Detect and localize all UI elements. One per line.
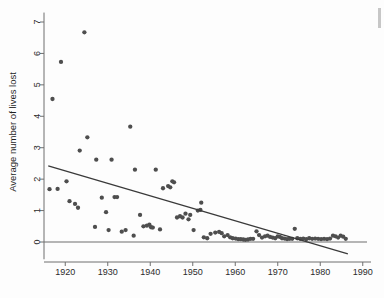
data-point <box>213 230 217 234</box>
y-tick-label: 4 <box>32 114 42 119</box>
data-point <box>251 237 255 241</box>
data-point <box>123 228 127 232</box>
x-tick-label: 1930 <box>98 267 118 277</box>
data-point <box>55 187 59 191</box>
x-tick-label: 1980 <box>310 267 330 277</box>
x-tick-label: 1920 <box>55 267 75 277</box>
data-point <box>115 195 119 199</box>
data-point <box>133 168 137 172</box>
y-tick-label: 3 <box>32 145 42 150</box>
data-point <box>59 60 63 64</box>
y-tick-label: 6 <box>32 51 42 56</box>
data-point <box>180 215 184 219</box>
chart-figure: 01234567 1920193019401950196019701980199… <box>0 0 384 298</box>
data-point <box>128 125 132 129</box>
x-tick-label: 1960 <box>225 267 245 277</box>
data-point <box>73 202 77 206</box>
x-tick-label: 1990 <box>353 267 373 277</box>
data-point <box>109 158 113 162</box>
y-axis: 01234567 <box>32 13 44 260</box>
x-tick-label: 1950 <box>183 267 203 277</box>
data-point <box>94 158 98 162</box>
y-axis-label: Average number of lives lost <box>7 72 18 192</box>
data-point <box>120 229 124 233</box>
data-point <box>158 227 162 231</box>
data-point <box>168 185 172 189</box>
y-tick-label: 2 <box>32 177 42 182</box>
x-tick-label: 1940 <box>140 267 160 277</box>
data-point <box>104 210 108 214</box>
data-point <box>100 196 104 200</box>
data-point <box>64 179 68 183</box>
y-tick-label: 0 <box>32 239 42 244</box>
x-tick-label: 1970 <box>268 267 288 277</box>
data-point <box>106 228 110 232</box>
y-tick-label: 1 <box>32 208 42 213</box>
data-point <box>76 206 80 210</box>
y-axis-title: Average number of lives lost <box>7 72 18 192</box>
data-point <box>67 199 71 203</box>
scan-edge-artifact <box>378 8 381 28</box>
data-point <box>199 201 203 205</box>
data-point <box>183 212 187 216</box>
y-tick-label: 5 <box>32 82 42 87</box>
data-point <box>50 97 54 101</box>
data-point <box>191 228 195 232</box>
data-point <box>293 227 297 231</box>
data-point <box>254 229 258 233</box>
data-point <box>93 225 97 229</box>
data-point <box>188 213 192 217</box>
data-point <box>154 168 158 172</box>
data-point <box>172 180 176 184</box>
data-point <box>138 213 142 217</box>
data-point <box>47 187 51 191</box>
y-tick-label: 7 <box>32 19 42 24</box>
data-point <box>151 225 155 229</box>
data-point <box>208 232 212 236</box>
data-point <box>161 186 165 190</box>
x-axis: 19201930194019501960197019801990 <box>44 262 373 277</box>
fit-line <box>48 166 348 254</box>
data-point <box>78 148 82 152</box>
data-point <box>132 234 136 238</box>
data-point <box>85 135 89 139</box>
scatter-plot-canvas: 01234567 1920193019401950196019701980199… <box>0 0 384 298</box>
data-point <box>82 30 86 34</box>
data-point <box>344 237 348 241</box>
data-point <box>205 236 209 240</box>
data-point <box>186 217 190 221</box>
